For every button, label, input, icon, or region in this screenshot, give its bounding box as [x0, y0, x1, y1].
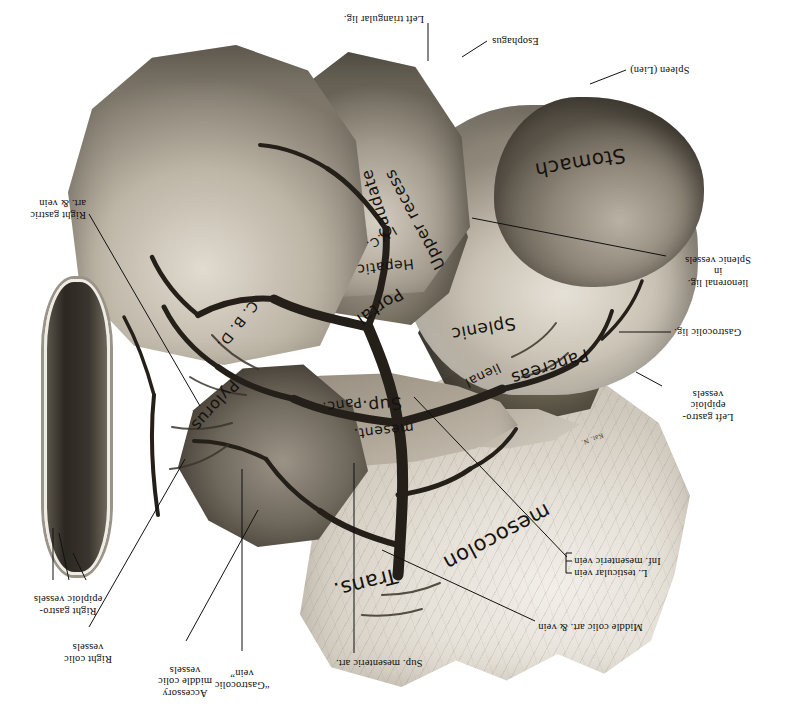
callout-line: epiploic vessels	[8, 594, 128, 606]
in-figure-label-sup: Sup.	[361, 393, 403, 417]
callout-line: Middle colic art. & vein	[538, 622, 696, 634]
callout-line: Inf. mesenteric vein	[574, 556, 726, 568]
callout-line: Accessory	[135, 688, 235, 700]
callout-line: lienorenal lig.	[668, 278, 768, 290]
callout-line: vessels	[662, 389, 754, 401]
callout-esophagus: Esophagus	[492, 36, 578, 48]
callout-line: Right gastric	[0, 210, 86, 222]
callout-l-testicular-vein: L. testicular vein	[574, 568, 726, 580]
callout-middle-colic-art-vein: Middle colic art. & vein	[538, 622, 696, 634]
callout-left-gastroepiploic-vessels: Left gastro- epiploic vessels	[662, 389, 754, 424]
callout-splenic-vessels-lienorenal: lienorenal lig. in Splenic vessels	[668, 255, 768, 290]
callout-line: L. testicular vein	[574, 568, 726, 580]
callout-line: middle colic	[135, 676, 235, 688]
callout-line: Right colic	[40, 654, 136, 666]
callout-right-gastroepiploic-vessels: Right gastro- epiploic vessels	[8, 594, 128, 617]
callout-line: vessels	[135, 665, 235, 677]
callout-line: Splenic vessels	[668, 255, 768, 267]
callout-sup-mesenteric-art: Sup. mesenteric art.	[336, 658, 486, 670]
callout-line: Right gastro-	[8, 606, 128, 618]
callout-inf-mesenteric-vein: Inf. mesenteric vein	[574, 556, 726, 568]
plate-rotated-container: Trans. mesocolon Sup. mesent. Pancreas l…	[0, 0, 786, 713]
callout-line: art. & vein	[0, 198, 86, 210]
callout-left-triangular-lig: Left triangular lig.	[304, 14, 424, 26]
callout-line: Left triangular lig.	[304, 14, 424, 26]
callout-line: Spleen (Lien)	[630, 65, 726, 77]
callout-line: Gastrocolic lig.	[674, 327, 766, 339]
anatomical-plate-page: Trans. mesocolon Sup. mesent. Pancreas l…	[0, 0, 786, 713]
specimen-drawing: Trans. mesocolon Sup. mesent. Pancreas l…	[70, 45, 698, 695]
callout-spleen-lien: Spleen (Lien)	[630, 65, 726, 77]
callout-right-colic-vessels: Right colic vessels	[40, 642, 136, 665]
callout-right-gastric-art-vein: Right gastric art. & vein	[0, 198, 86, 221]
callout-line: vessels	[40, 642, 136, 654]
vessel-tree-overlay	[70, 45, 698, 695]
callout-accessory-middle-colic-vessels: Accessory middle colic vessels	[135, 665, 235, 700]
callout-line: Esophagus	[492, 36, 578, 48]
callout-line: in	[668, 266, 768, 278]
callout-gastrocolic-lig: Gastrocolic lig.	[674, 327, 766, 339]
callout-line: Left gastro-	[662, 412, 754, 424]
callout-line: Sup. mesenteric art.	[336, 658, 486, 670]
callout-line: epiploic	[662, 400, 754, 412]
